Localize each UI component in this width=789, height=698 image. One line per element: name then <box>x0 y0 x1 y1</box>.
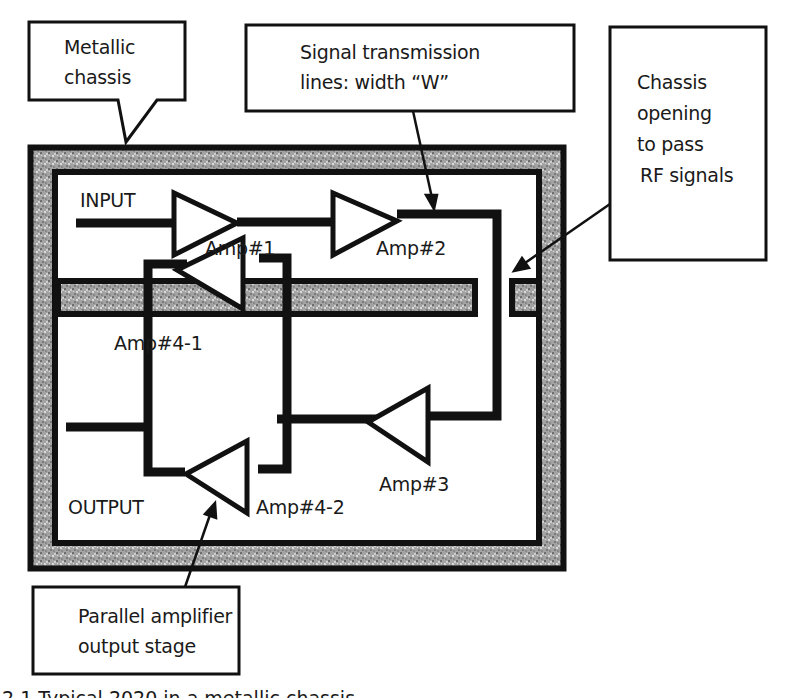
callout-parallel-stage-text: Parallel amplifier output stage <box>78 601 232 661</box>
amp2-label: Amp#2 <box>376 237 446 260</box>
amp4-2-label: Amp#4-2 <box>256 496 344 519</box>
figure-caption: 2.1 Typical 2020 in a metallic chassis <box>2 686 355 698</box>
amp3-label: Amp#3 <box>379 473 449 496</box>
amp4-1-label: Amp#4-1 <box>114 332 202 355</box>
input-label: INPUT <box>80 189 135 212</box>
callout-metallic-chassis-text: Metallic chassis <box>64 32 135 92</box>
callout-line: Signal transmission <box>300 37 480 67</box>
output-label: OUTPUT <box>68 496 144 519</box>
callout-line: opening <box>637 98 733 129</box>
callout-chassis-opening-text: Chassis opening to pass RF signals <box>637 67 733 191</box>
amp1-label: Amp#1 <box>205 237 275 260</box>
callout-transmission-lines-text: Signal transmission lines: width “W” <box>300 37 480 97</box>
callout-line: Parallel amplifier <box>78 601 232 631</box>
callout-line: to pass <box>637 129 733 160</box>
callout-line: chassis <box>64 62 135 92</box>
partition-wall <box>58 281 539 314</box>
callout-line: Metallic <box>64 32 135 62</box>
callout-line: output stage <box>78 631 232 661</box>
callout-line: lines: width “W” <box>300 67 480 97</box>
callout-line: RF signals <box>637 160 733 191</box>
callout-line: Chassis <box>637 67 733 98</box>
